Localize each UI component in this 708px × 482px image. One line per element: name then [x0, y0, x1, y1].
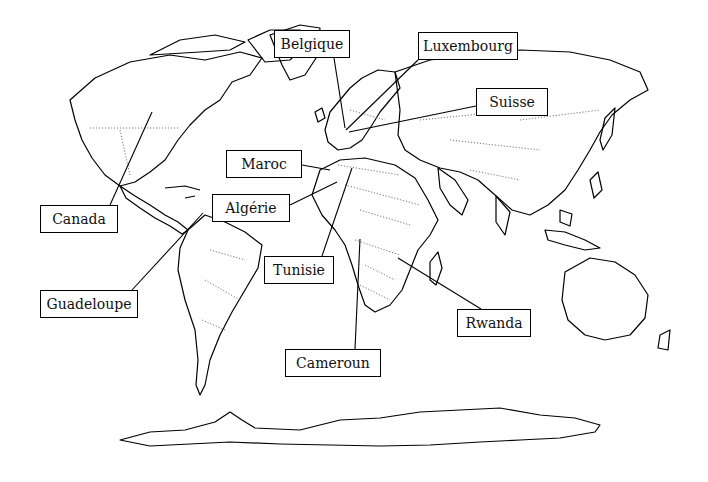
- leader-line-algerie: [290, 182, 337, 205]
- leader-line-canada: [110, 112, 152, 205]
- leader-line-belgique: [334, 58, 345, 128]
- leader-line-tunisie: [322, 168, 352, 256]
- label-suisse: Suisse: [476, 88, 548, 116]
- label-rwanda: Rwanda: [457, 309, 531, 337]
- leader-line-suisse: [349, 106, 476, 132]
- label-belgique: Belgique: [274, 30, 350, 58]
- label-maroc: Maroc: [226, 150, 302, 178]
- leader-line-cameroun: [355, 239, 360, 349]
- leader-lines: [110, 58, 481, 349]
- label-cameroun: Cameroun: [285, 349, 381, 377]
- label-luxembourg: Luxembourg: [418, 32, 518, 60]
- leader-line-rwanda: [398, 258, 481, 309]
- country-borders: [90, 110, 600, 330]
- label-tunisie: Tunisie: [264, 256, 334, 284]
- label-algerie: Algérie: [212, 194, 290, 222]
- label-canada: Canada: [40, 205, 118, 233]
- coastlines: [70, 25, 670, 446]
- world-map: [0, 0, 708, 482]
- label-guadeloupe: Guadeloupe: [40, 290, 138, 318]
